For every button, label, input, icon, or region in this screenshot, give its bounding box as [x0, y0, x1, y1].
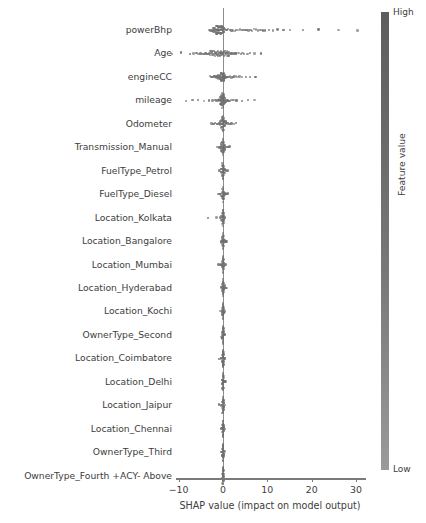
data-point	[222, 455, 225, 458]
data-point	[221, 412, 224, 415]
beeswarm-row	[176, 183, 366, 205]
beeswarm-row	[176, 324, 366, 346]
y-axis-label: powerBhp	[0, 24, 172, 35]
data-point	[282, 29, 284, 31]
data-point	[222, 342, 225, 345]
y-axis-feature-labels: powerBhpAgeengineCCmileageOdometerTransm…	[0, 0, 176, 472]
beeswarm-row	[176, 113, 366, 135]
data-point	[247, 99, 250, 102]
data-point	[233, 123, 235, 125]
data-point	[207, 217, 209, 219]
y-axis-label: Location_Coimbatore	[0, 352, 172, 363]
data-point	[222, 150, 224, 152]
data-point	[222, 318, 224, 320]
shap-summary-plot: powerBhpAgeengineCCmileageOdometerTransm…	[0, 0, 426, 523]
data-point	[222, 201, 224, 203]
data-point	[222, 295, 224, 297]
beeswarm-row	[176, 89, 366, 111]
data-point	[235, 122, 238, 125]
data-point	[192, 52, 194, 54]
data-point	[223, 450, 226, 453]
data-point	[224, 404, 226, 406]
beeswarm-row	[176, 418, 366, 440]
x-axis-tick-mark	[223, 478, 224, 482]
y-axis-label: engineCC	[0, 71, 172, 82]
data-point	[241, 76, 243, 78]
y-axis-label: Location_Kolkata	[0, 212, 172, 223]
beeswarm-plot-area	[176, 8, 366, 472]
data-point	[337, 29, 339, 31]
x-axis-tick-mark	[356, 478, 357, 482]
data-point	[222, 436, 224, 438]
data-point	[243, 53, 245, 55]
y-axis-label: Odometer	[0, 118, 172, 129]
x-axis-tick-label: 20	[292, 484, 332, 495]
data-point	[223, 106, 225, 108]
y-axis-label: FuelType_Petrol	[0, 165, 172, 176]
data-point	[224, 428, 226, 430]
data-point	[317, 28, 319, 30]
data-point	[223, 79, 225, 81]
data-point	[223, 475, 225, 477]
data-point	[222, 389, 224, 391]
beeswarm-row	[176, 394, 366, 416]
data-point	[268, 29, 271, 32]
feature-value-colorbar	[381, 12, 389, 470]
data-point	[232, 99, 234, 101]
beeswarm-row	[176, 277, 366, 299]
data-point	[222, 363, 224, 365]
y-axis-label: Transmission_Manual	[0, 141, 172, 152]
y-axis-label: OwnerType_Second	[0, 329, 172, 340]
data-point	[264, 29, 266, 31]
data-point	[222, 408, 224, 410]
data-point	[272, 29, 275, 32]
data-point	[222, 258, 224, 260]
beeswarm-row	[176, 371, 366, 393]
data-point	[228, 145, 231, 148]
data-point	[225, 240, 227, 242]
y-axis-label: Age	[0, 47, 172, 58]
data-point	[223, 337, 225, 339]
y-axis-label: Location_Bangalore	[0, 235, 172, 246]
y-axis-label: Location_Jaipur	[0, 399, 172, 410]
y-axis-label: Location_Delhi	[0, 376, 172, 387]
data-point	[222, 469, 225, 472]
data-point	[203, 100, 205, 102]
x-axis-tick-label: 10	[247, 484, 287, 495]
x-axis-tick-mark	[179, 478, 180, 482]
data-point	[222, 327, 224, 329]
data-point	[246, 53, 249, 56]
x-axis-tick-mark	[312, 478, 313, 482]
data-point	[253, 52, 256, 55]
data-point	[189, 53, 191, 55]
y-axis-label: Location_Hyderabad	[0, 282, 172, 293]
colorbar-high-label: High	[393, 7, 414, 17]
data-point	[222, 365, 224, 367]
data-point	[224, 357, 226, 359]
data-point	[235, 99, 238, 102]
data-point	[222, 197, 225, 200]
data-point	[245, 76, 247, 78]
beeswarm-row	[176, 230, 366, 252]
data-point	[222, 353, 225, 356]
y-axis-label: mileage	[0, 94, 172, 105]
beeswarm-row	[176, 347, 366, 369]
data-point	[224, 310, 226, 312]
beeswarm-row	[176, 254, 366, 276]
data-point	[226, 287, 228, 289]
data-point	[222, 460, 224, 462]
beeswarm-row	[176, 207, 366, 229]
data-point	[356, 29, 359, 32]
data-point	[222, 360, 224, 362]
x-axis-tick-label: −10	[159, 484, 199, 495]
data-point	[222, 221, 225, 224]
data-point	[191, 99, 194, 102]
beeswarm-row	[176, 19, 366, 41]
data-point	[222, 177, 225, 180]
data-point	[224, 380, 227, 383]
data-point	[222, 291, 224, 293]
x-axis-tick-label: 0	[203, 484, 243, 495]
data-point	[249, 76, 251, 78]
data-point	[224, 217, 226, 219]
y-axis-label: Location_Mumbai	[0, 259, 172, 270]
